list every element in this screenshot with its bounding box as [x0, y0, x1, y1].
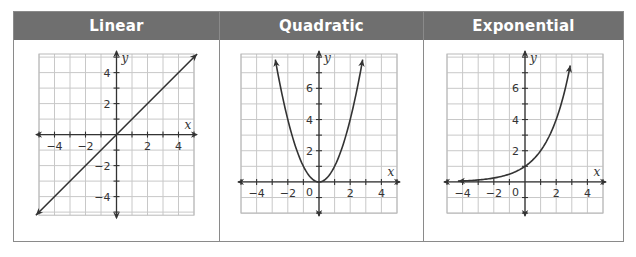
x-axis-label: x	[388, 165, 395, 179]
x-tick-label: 2	[553, 187, 560, 200]
y-tick-label: 4	[104, 67, 111, 80]
panel-header-exponential: Exponential	[424, 12, 623, 40]
x-axis-label: x	[185, 118, 192, 132]
y-tick-label: 2	[306, 145, 313, 158]
y-tick-label: 6	[512, 82, 519, 95]
y-tick-label: −4	[94, 191, 110, 204]
exponential-graph-svg: −4−2242460xy	[424, 40, 624, 243]
x-tick-label: 2	[347, 187, 354, 200]
y-axis-label: y	[323, 51, 331, 65]
y-axis-label: y	[529, 51, 537, 65]
origin-label: 0	[512, 186, 519, 199]
x-tick-label: 2	[144, 140, 151, 153]
y-tick-label: 2	[104, 98, 111, 111]
x-tick-label: −2	[280, 187, 296, 200]
origin-label: 0	[306, 186, 313, 199]
x-tick-label: −4	[248, 187, 264, 200]
panel-linear: Linear −4−224−4−224xy	[14, 12, 219, 241]
y-tick-label: −2	[94, 160, 110, 173]
panel-quadratic: Quadratic −4−2242460xy	[219, 12, 423, 241]
graph-exponential: −4−2242460xy	[424, 40, 623, 241]
x-axis-label: x	[594, 165, 601, 179]
y-axis-label: y	[121, 51, 129, 65]
linear-graph-svg: −4−224−4−224xy	[14, 40, 219, 243]
graph-linear: −4−224−4−224xy	[14, 40, 219, 241]
quadratic-graph-svg: −4−2242460xy	[220, 40, 424, 243]
x-tick-label: −2	[486, 187, 502, 200]
x-tick-label: −2	[77, 140, 93, 153]
x-tick-label: 4	[584, 187, 591, 200]
x-tick-label: 4	[175, 140, 182, 153]
y-tick-label: 4	[512, 114, 519, 127]
panel-exponential: Exponential −4−2242460xy	[423, 12, 623, 241]
y-tick-label: 4	[306, 114, 313, 127]
panel-header-linear: Linear	[14, 12, 219, 40]
y-tick-label: 6	[306, 82, 313, 95]
y-tick-label: 2	[512, 145, 519, 158]
panel-header-quadratic: Quadratic	[220, 12, 423, 40]
x-tick-label: −4	[454, 187, 470, 200]
function-comparison-table: Linear −4−224−4−224xy Quadratic −4−22424…	[13, 11, 624, 242]
graph-quadratic: −4−2242460xy	[220, 40, 423, 241]
x-tick-label: 4	[378, 187, 385, 200]
x-tick-label: −4	[46, 140, 62, 153]
